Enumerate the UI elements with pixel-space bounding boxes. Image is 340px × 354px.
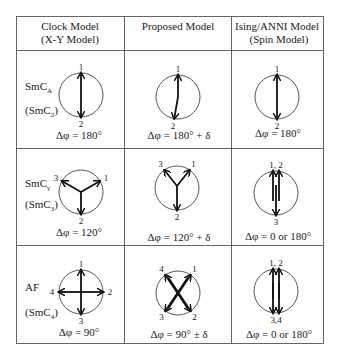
- equation: Δφ = 180°: [56, 129, 102, 141]
- layer-label: 3,4: [270, 315, 282, 325]
- clock-model-diagram: 12: [59, 62, 103, 129]
- phase-alt-name: (SmC4): [25, 306, 58, 321]
- phase-label-smca: SmCA (SmC2): [25, 80, 58, 119]
- header-proposed-line1: Proposed Model: [142, 20, 214, 32]
- equation: Δφ = 120° + δ: [148, 231, 211, 243]
- layer-arrow-1: [81, 181, 100, 192]
- layer-label: 4: [50, 287, 55, 297]
- header-ising-line1: Ising/ANNI Model: [235, 20, 319, 32]
- layer-label: 3: [158, 159, 163, 169]
- layer-label: 2: [192, 312, 197, 322]
- layer-arrow-3: [165, 277, 187, 311]
- ising-model-diagram: 1, 23: [254, 160, 298, 227]
- phase-model-table: Clock Model (X-Y Model) Proposed Model I…: [0, 0, 340, 354]
- header-row: Clock Model (X-Y Model) Proposed Model I…: [41, 20, 319, 46]
- layer-label: 1: [104, 173, 109, 183]
- layer-label: 3: [274, 217, 279, 227]
- layer-label: 2: [171, 121, 176, 131]
- layer-arrow-2: [168, 277, 190, 311]
- layer-label: 1: [79, 259, 84, 269]
- proposed-model-diagram: 12: [156, 64, 200, 131]
- phase-name: SmCγ: [25, 177, 50, 192]
- layer-label: 2: [275, 121, 280, 131]
- phase-name: AF: [25, 281, 39, 293]
- equation: Δφ = 180° + δ: [148, 129, 211, 141]
- layer-label: 1, 2: [269, 160, 283, 170]
- equation: Δφ = 90°: [59, 326, 100, 338]
- proposed-model-diagram: 1234: [156, 264, 200, 322]
- layer-label: 1: [192, 264, 197, 274]
- layer-label: 3: [79, 316, 84, 326]
- ising-model-diagram: 1, 23,4: [254, 258, 298, 325]
- phase-name: SmCA: [25, 80, 52, 95]
- header-clock-line2: (X-Y Model): [41, 33, 99, 46]
- layer-arrow-3: [62, 181, 81, 192]
- phase-alt-name: (SmC3): [25, 198, 58, 213]
- equation: Δφ = 90° ± δ: [150, 328, 207, 340]
- layer-arrow-2: [174, 97, 178, 119]
- layer-label: 1, 2: [269, 258, 283, 268]
- layer-label: 1: [176, 64, 181, 74]
- layer-label: 3: [54, 173, 59, 183]
- layer-label: 2: [79, 119, 84, 129]
- layer-arrow-1: [168, 275, 190, 309]
- layer-arrow-4: [165, 275, 187, 309]
- model-diagrams: 1212121231231, 23123412341, 23,4: [50, 62, 299, 326]
- layer-label: 2: [175, 212, 180, 222]
- layer-label: 2: [108, 287, 113, 297]
- clock-model-diagram: 123: [54, 170, 109, 226]
- equation: Δφ = 0 or 180°: [245, 230, 311, 242]
- clock-model-diagram: 1234: [50, 259, 113, 326]
- layer-label: 1: [79, 62, 84, 72]
- unit-circle: [254, 269, 298, 313]
- layer-label: 1: [191, 159, 196, 169]
- phase-alt-name: (SmC2): [25, 104, 58, 119]
- layer-label: 3: [159, 312, 164, 322]
- header-ising-line2: (Spin Model): [250, 33, 309, 46]
- equation: Δφ = 0 or 180°: [246, 328, 312, 340]
- equation: Δφ = 120°: [56, 226, 102, 238]
- layer-label: 2: [79, 216, 84, 226]
- layer-arrow-1: [177, 170, 190, 186]
- layer-label: 4: [159, 264, 164, 274]
- header-clock-line1: Clock Model: [41, 20, 99, 32]
- ising-model-diagram: 12: [255, 64, 299, 131]
- proposed-model-diagram: 123: [155, 159, 199, 222]
- layer-label: 1: [275, 64, 280, 74]
- layer-arrow-3: [164, 170, 177, 186]
